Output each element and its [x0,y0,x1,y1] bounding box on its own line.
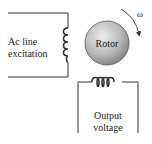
output-label-line2: voltage [93,122,123,133]
output-label-line1: Output [94,110,122,121]
rotor-label: Rotor [96,38,119,49]
resolver-diagram: Ac line excitation Rotor Output voltage … [0,0,152,144]
input-coil-icon [64,28,69,62]
input-label-line1: Ac line [8,36,38,47]
output-coil-icon [92,78,114,87]
output-wire-left [78,82,92,133]
input-wire-top [8,13,68,28]
input-wire-bottom [8,62,68,77]
omega-label: ω [137,9,143,19]
output-wire-right [122,82,138,133]
input-label-line2: excitation [8,48,47,59]
